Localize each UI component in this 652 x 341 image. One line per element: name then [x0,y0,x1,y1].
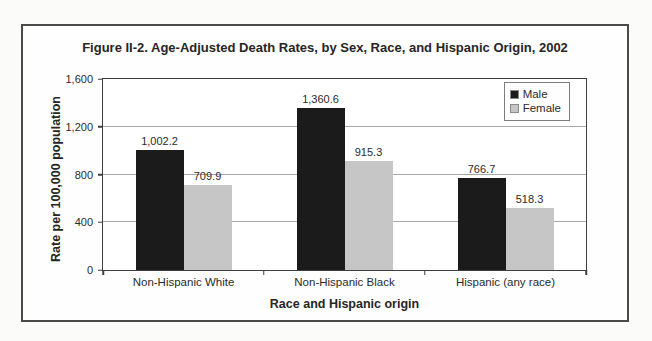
category-label-3: Hispanic (any race) [425,276,586,288]
x-tick-mark-1 [263,270,265,275]
category-label-2: Non-Hispanic Black [264,276,425,288]
category-labels: Non-Hispanic WhiteNon-Hispanic BlackHisp… [103,276,586,288]
plot-area: Rate per 100,000 population Male Female … [102,78,587,271]
y-tick-label-1200: 1,200 [52,121,93,132]
bar-male-1: 1,002.2 [136,150,184,270]
x-tick-mark-3 [585,270,587,275]
bar-female-1: 709.9 [184,185,232,270]
legend-item-female: Female [510,102,561,115]
bar-value-label: 1,002.2 [141,135,178,147]
x-tick-mark-0 [102,270,104,275]
bar-value-label: 766.7 [468,163,496,175]
legend-label-female: Female [523,102,561,115]
male-swatch-icon [510,90,519,99]
figure-frame: Figure II-2. Age-Adjusted Death Rates, b… [21,24,629,322]
category-label-1: Non-Hispanic White [103,276,264,288]
bar-value-label: 709.9 [194,170,222,182]
y-tick-label-800: 800 [52,169,93,180]
y-tick-label-400: 400 [52,217,93,228]
figure-title: Figure II-2. Age-Adjusted Death Rates, b… [23,40,627,55]
x-axis-title: Race and Hispanic origin [103,297,586,311]
page-background: { "figure": { "title": "Figure II-2. Age… [0,0,652,341]
bar-group-1: 1,002.2709.9 [103,79,264,270]
bar-male-3: 766.7 [458,178,506,270]
bar-male-2: 1,360.6 [297,108,345,270]
legend-label-male: Male [523,88,548,101]
bar-value-label: 1,360.6 [302,93,339,105]
bar-value-label: 915.3 [355,146,383,158]
y-tick-label-1600: 1,600 [52,74,93,85]
female-swatch-icon [510,104,519,113]
y-tick-label-0: 0 [52,265,93,276]
bar-female-2: 915.3 [345,161,393,270]
x-tick-mark-2 [424,270,426,275]
legend: Male Female [504,82,570,121]
bar-value-label: 518.3 [516,193,544,205]
bar-group-2: 1,360.6915.3 [264,79,425,270]
legend-item-male: Male [510,88,561,101]
bar-female-3: 518.3 [506,208,554,270]
